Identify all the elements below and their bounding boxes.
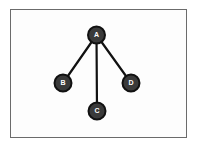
graph-node-c[interactable]: C	[89, 103, 106, 120]
node-label: B	[60, 79, 65, 86]
node-label: A	[94, 31, 99, 38]
edges-layer	[63, 35, 131, 111]
graph-canvas: ABCD	[0, 0, 197, 150]
graph-edge	[97, 35, 98, 111]
graph-node-d[interactable]: D	[123, 75, 140, 92]
node-label: D	[128, 79, 133, 86]
graph-node-b[interactable]: B	[55, 75, 72, 92]
diagram-root: ABCD	[0, 0, 197, 150]
graph-node-a[interactable]: A	[88, 27, 105, 44]
node-label: C	[94, 107, 99, 114]
